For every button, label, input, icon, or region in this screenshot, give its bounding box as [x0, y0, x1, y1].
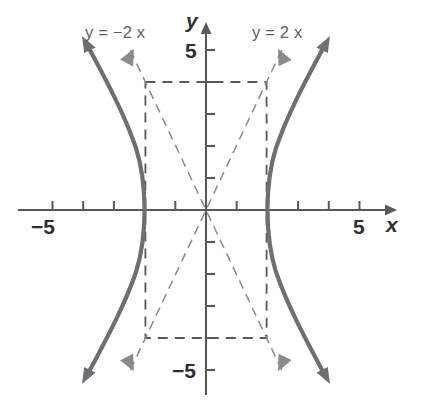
asymptote-left-label: y = −2 x — [85, 24, 145, 41]
graph-canvas — [0, 0, 421, 405]
hyperbola-figure: y = −2 x y = 2 x −5 5 5 −5 x y — [0, 0, 421, 405]
y-axis-label: y — [186, 10, 198, 31]
x-tick-label-positive-five: 5 — [353, 216, 365, 237]
x-axis-label: x — [386, 214, 398, 235]
asymptote-right-label: y = 2 x — [252, 24, 302, 41]
y-tick-label-positive-five: 5 — [185, 40, 197, 61]
y-tick-label-negative-five: −5 — [172, 360, 196, 381]
y-axis — [201, 22, 215, 395]
x-tick-label-negative-five: −5 — [31, 216, 55, 237]
